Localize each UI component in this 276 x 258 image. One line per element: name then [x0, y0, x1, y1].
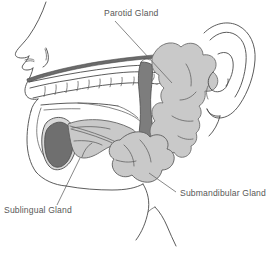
leader-line-submandibular: [149, 173, 176, 192]
anatomy-illustration: Parotid Gland Submandibular Gland Sublin…: [0, 0, 276, 258]
salivary-gland-diagram: Parotid Gland Submandibular Gland Sublin…: [0, 0, 276, 258]
label-sublingual-gland: Sublingual Gland: [4, 205, 72, 215]
label-submandibular-gland: Submandibular Gland: [180, 188, 266, 198]
label-parotid-gland: Parotid Gland: [104, 8, 159, 18]
oral-cavity: [78, 103, 141, 122]
